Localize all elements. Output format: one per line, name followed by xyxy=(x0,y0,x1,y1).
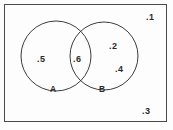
point-label-outside-top-right: .1 xyxy=(146,13,155,22)
venn-diagram-figure: A B .1 .5 .6 .2 .4 .3 xyxy=(0,0,173,130)
set-label-b: B xyxy=(99,85,105,94)
point-label-intersection: .6 xyxy=(73,55,82,64)
point-label-b-only-upper: .2 xyxy=(109,42,118,51)
set-label-a: A xyxy=(50,85,56,94)
point-label-outside-bottom-right: .3 xyxy=(142,107,151,116)
point-label-b-only-lower: .4 xyxy=(115,65,124,74)
universal-set-rectangle xyxy=(5,5,167,122)
point-label-a-only: .5 xyxy=(37,55,46,64)
